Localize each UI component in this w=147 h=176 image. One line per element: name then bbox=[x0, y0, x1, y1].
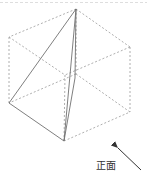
front-view-arrow bbox=[118, 148, 141, 170]
cube-diagram bbox=[0, 0, 147, 176]
dashed-cube-edges bbox=[9, 9, 130, 141]
front-view-label: 正面 bbox=[96, 160, 116, 172]
